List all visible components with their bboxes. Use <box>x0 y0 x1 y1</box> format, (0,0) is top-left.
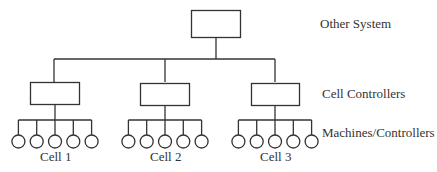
cell-controller-3 <box>252 84 300 106</box>
hierarchy-diagram: Other System Cell Controllers Machines/C… <box>0 0 437 172</box>
machine-node <box>67 135 80 148</box>
cell-controller-2 <box>141 84 190 106</box>
cell-label-1: Cell 1 <box>40 149 71 165</box>
machine-node <box>250 135 263 148</box>
machine-node <box>85 135 98 148</box>
machine-node <box>269 135 282 148</box>
machine-node <box>140 135 153 148</box>
level-label-other-system: Other System <box>320 16 391 32</box>
level-label-cell-controllers: Cell Controllers <box>322 86 405 102</box>
machine-node <box>232 135 245 148</box>
machine-node <box>305 135 318 148</box>
machine-node <box>195 135 208 148</box>
cell-label-2: Cell 2 <box>150 149 181 165</box>
machine-node <box>12 135 25 148</box>
cell-controller-1 <box>31 83 80 105</box>
level-label-machines: Machines/Controllers <box>322 125 435 141</box>
machine-node <box>177 135 190 148</box>
machine-node <box>122 135 135 148</box>
cell-label-3: Cell 3 <box>260 149 291 165</box>
machine-node <box>30 135 43 148</box>
other-system-box <box>192 11 241 38</box>
machine-node <box>287 135 300 148</box>
machine-node <box>159 135 172 148</box>
machine-node <box>49 135 62 148</box>
